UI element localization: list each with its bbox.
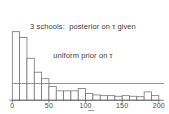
histogram-bar xyxy=(115,96,122,100)
histogram-bar xyxy=(34,72,41,100)
histogram-bar xyxy=(42,79,49,101)
histogram-bar xyxy=(20,38,27,101)
scan-artifact-dash xyxy=(88,110,94,111)
histogram-bar xyxy=(12,32,19,101)
histogram-bar xyxy=(86,93,93,100)
histogram-bar xyxy=(137,97,144,100)
histogram-bar xyxy=(27,58,34,100)
histogram-bar xyxy=(108,96,115,101)
figure-3-schools-posterior: 3 schools: posterior on τ given uniform … xyxy=(0,0,169,114)
histogram-bar xyxy=(78,88,85,100)
histogram-bar xyxy=(130,96,137,100)
histogram-plot xyxy=(0,0,169,114)
histogram-bar xyxy=(151,96,158,101)
histogram-bar xyxy=(71,91,78,100)
histogram-bar xyxy=(122,96,129,101)
histogram-bar xyxy=(49,87,56,101)
histogram-bar xyxy=(144,92,151,100)
histogram-bar xyxy=(100,96,107,101)
histogram-bar xyxy=(93,95,100,100)
histogram-bar xyxy=(56,91,63,100)
histogram-bar xyxy=(64,91,71,100)
